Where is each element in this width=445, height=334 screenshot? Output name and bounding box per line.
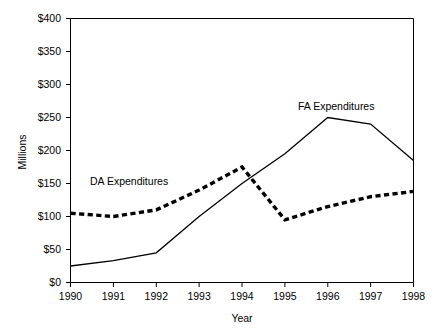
- line-chart: $0 $50 $100 $150 $200 $250 $300 $350 $40…: [0, 0, 445, 334]
- y-tick-label-0: $0: [49, 276, 61, 288]
- y-tick-label-100: $100: [38, 210, 62, 222]
- y-tick-label-250: $250: [38, 111, 62, 123]
- x-tick-label-1991: 1991: [102, 290, 126, 302]
- x-tick-label-1990: 1990: [59, 290, 83, 302]
- y-tick-label-300: $300: [38, 78, 62, 90]
- x-tick-label-1997: 1997: [359, 290, 383, 302]
- y-axis-title: Millions: [16, 134, 28, 169]
- axis-lines: [71, 19, 414, 283]
- x-tick-label-1998: 1998: [402, 290, 426, 302]
- x-tick-label-1995: 1995: [273, 290, 297, 302]
- x-tick-label-1992: 1992: [145, 290, 169, 302]
- x-axis-title: Year: [231, 312, 253, 324]
- y-tick-label-200: $200: [38, 144, 62, 156]
- x-tick-label-1996: 1996: [316, 290, 340, 302]
- x-tick-label-1993: 1993: [187, 290, 211, 302]
- chart-canvas: $0 $50 $100 $150 $200 $250 $300 $350 $40…: [0, 0, 445, 334]
- x-tick-label-1994: 1994: [230, 290, 254, 302]
- y-tick-label-400: $400: [38, 12, 62, 24]
- y-axis-ticks: [66, 19, 71, 283]
- x-axis-ticks: [71, 283, 414, 288]
- y-tick-label-350: $350: [38, 45, 62, 57]
- series-annotation-da: DA Expenditures: [90, 175, 168, 187]
- series-line-fa-expenditures: [71, 118, 414, 267]
- series-annotation-fa: FA Expenditures: [298, 100, 374, 112]
- y-tick-label-150: $150: [38, 177, 62, 189]
- y-tick-label-50: $50: [43, 243, 61, 255]
